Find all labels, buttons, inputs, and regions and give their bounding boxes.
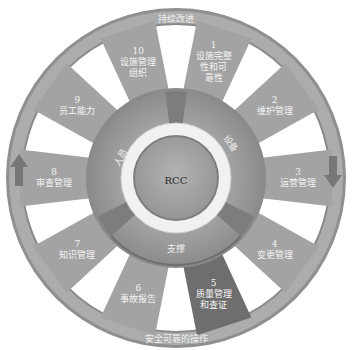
outer-bottom-label: 安全可靠的操作 [145,332,208,345]
inner-label-support: 支撑 [167,242,185,255]
outer-top-label: 持续改进 [158,12,194,25]
center-label: RCC [165,175,188,186]
spoke-label-3: 3运营管理 [280,167,316,189]
spoke-label-8: 8审查管理 [36,167,72,189]
spoke-label-10: 10设施管理组织 [120,45,156,78]
spoke-label-4: 4变更管理 [257,239,293,261]
spoke-label-9: 9员工能力 [59,95,95,117]
spoke-label-7: 7知识管理 [59,239,95,261]
rcc-wheel-diagram: 持续改进 安全可靠的操作 1设施完整性和可靠性2维护管理3运营管理4变更管理5质… [0,0,353,350]
spoke-label-2: 2维护管理 [257,95,293,117]
spoke-label-1: 1设施完整性和可靠性 [196,40,232,84]
spoke-label-5: 5质量管理和查证 [196,278,232,311]
spoke-label-6: 6事故报告 [120,283,156,305]
